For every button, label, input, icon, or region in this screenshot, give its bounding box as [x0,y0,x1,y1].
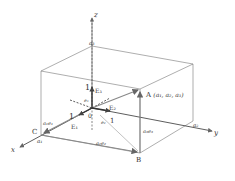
a2e2-label: a₂e₂ [96,140,106,146]
y-unit-mark: 1 [110,117,114,125]
x-intercept-label: a₁ [37,138,42,144]
z-axis-label: z [93,11,98,19]
a3e3-label: a₃e₃ [143,128,153,134]
vectors [41,90,140,153]
y-intercept-label: a₂ [193,122,198,128]
diagram-svg: z y x 1 E₃ e₃ E₂ 1 1 E₁ e₂ 0 A (a₁, a₂, … [0,0,235,181]
point-B-label: B [136,156,141,164]
a1e1-label: a₁e₁ [43,120,53,126]
x-unit-mark: 1 [69,112,74,121]
vector-a2e2 [41,135,137,152]
E1-label: E₁ [71,123,78,130]
e3-label: e₃ [84,98,89,103]
y-axis-label: y [213,129,219,137]
box-edges [41,46,193,153]
z-intercept-label: a₃ [89,40,94,46]
E2-label: E₂ [109,104,116,111]
coordinate-diagram: z y x 1 E₃ e₃ E₂ 1 1 E₁ e₂ 0 A (a₁, a₂, … [0,0,235,181]
point-C-label: C [32,128,37,136]
z-axis: z [92,11,98,130]
E3-label: E₃ [95,87,102,94]
e2-label: e₂ [101,120,106,125]
origin-label: 0 [88,112,92,119]
z-unit-mark: 1 [85,83,90,92]
x-axis-label: x [11,146,15,154]
point-A-label: A (a₁, a₂, a₃) [145,91,184,99]
